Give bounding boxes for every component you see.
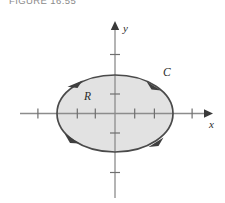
y-axis-arrow-icon xyxy=(111,21,119,30)
x-axis-label: x xyxy=(208,118,214,130)
coordinate-plot: y x C R xyxy=(0,0,225,203)
figure-container: FIGURE 16.55 xyxy=(0,0,225,203)
region-r-label: R xyxy=(83,90,91,102)
y-axis-label: y xyxy=(122,22,128,34)
curve-c-label: C xyxy=(163,66,171,78)
x-axis-arrow-icon xyxy=(204,109,213,117)
